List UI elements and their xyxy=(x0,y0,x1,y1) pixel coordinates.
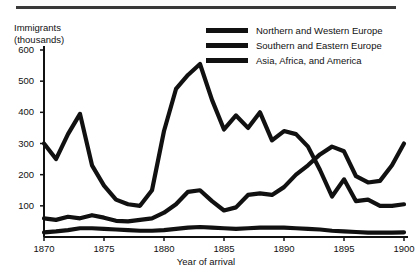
legend-swatch-icon xyxy=(206,58,248,63)
series-line-2 xyxy=(44,227,404,233)
legend-swatch-icon xyxy=(206,28,248,33)
x-tick-label: 1880 xyxy=(146,243,182,254)
x-tick-label: 1890 xyxy=(266,243,302,254)
legend-item-southern-eastern-europe[interactable]: Southern and Eastern Europe xyxy=(206,39,383,51)
series-line-0 xyxy=(44,64,404,206)
legend-item-label: Southern and Eastern Europe xyxy=(256,40,382,51)
y-tick-label: 100 xyxy=(4,200,34,211)
legend-item-northern-western-europe[interactable]: Northern and Western Europe xyxy=(206,24,383,36)
legend-swatch-icon xyxy=(206,43,248,48)
y-tick-label: 300 xyxy=(4,138,34,149)
header-rule xyxy=(16,6,396,9)
legend-item-label: Northern and Western Europe xyxy=(256,25,383,36)
x-axis-title: Year of arrival xyxy=(0,256,412,267)
x-tick-label: 1900 xyxy=(386,243,419,254)
x-tick-label: 1895 xyxy=(326,243,362,254)
x-tick-label: 1885 xyxy=(206,243,242,254)
series-line-1 xyxy=(44,144,404,222)
x-tick-label: 1875 xyxy=(86,243,122,254)
y-tick-label: 200 xyxy=(4,169,34,180)
series-layer xyxy=(44,64,404,233)
x-tick-label: 1870 xyxy=(26,243,62,254)
chart-legend: Northern and Western Europe Southern and… xyxy=(206,24,383,66)
legend-item-label: Asia, Africa, and America xyxy=(256,55,362,66)
legend-item-asia-africa-america[interactable]: Asia, Africa, and America xyxy=(206,54,383,66)
y-tick-label: 400 xyxy=(4,106,34,117)
y-tick-label: 500 xyxy=(4,75,34,86)
y-tick-label: 600 xyxy=(4,44,34,55)
y-axis-title: Immigrants (thousands) xyxy=(14,22,64,45)
